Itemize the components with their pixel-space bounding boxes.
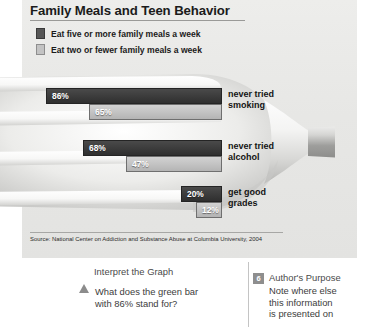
bar-value-12: 12%: [202, 205, 219, 215]
bar-value-68: 68%: [89, 143, 106, 153]
exercise-right-title: Author's Purpose: [269, 272, 341, 283]
bar-value-20: 20%: [187, 189, 204, 199]
column-divider: [248, 262, 249, 327]
exercise-left-body: What does the green bar with 86% stand f…: [95, 286, 239, 309]
exercise-number-badge: 6: [253, 273, 264, 284]
exercise-left-header: Interpret the Graph: [79, 266, 239, 285]
category-label-smoking: never tried smoking: [228, 89, 274, 110]
category-label-grades: get good grades: [228, 187, 266, 208]
bar-alcohol-five-or-more: 68%: [83, 140, 222, 156]
exercise-right-body: Note where else this information is pres…: [269, 285, 381, 320]
bar-smoking-five-or-more: 86%: [46, 88, 222, 104]
triangle-icon: [79, 267, 89, 285]
source-divider: [30, 232, 283, 233]
exercise-number-label: 6: [253, 273, 264, 284]
exercise-right-header: 6 Author's Purpose: [253, 272, 381, 284]
source-citation: Source: National Center on Addiction and…: [30, 236, 262, 242]
bar-grades-five-or-more: 20%: [181, 186, 222, 202]
bar-value-65: 65%: [95, 107, 112, 117]
bar-alcohol-two-or-fewer: 47%: [126, 156, 222, 172]
category-label-alcohol: never tried alcohol: [228, 141, 274, 162]
bar-grades-two-or-fewer: 12%: [196, 202, 222, 218]
bar-smoking-two-or-fewer: 65%: [89, 104, 222, 120]
bar-value-47: 47%: [132, 159, 149, 169]
exercise-authors-purpose: 6 Author's Purpose Note where else this …: [253, 272, 381, 320]
exercise-left-title: Interpret the Graph: [94, 266, 173, 277]
exercise-interpret-the-graph: Interpret the Graph What does the green …: [79, 266, 239, 309]
bar-value-86: 86%: [52, 91, 69, 101]
bar-chart: 86% 65% never tried smoking 68% 47% neve…: [0, 0, 335, 258]
